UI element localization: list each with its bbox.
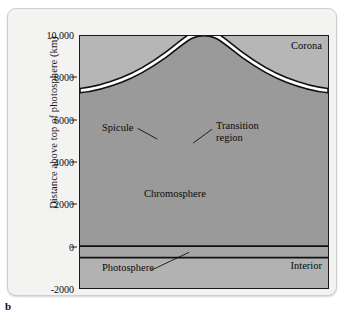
transition-region-label-line1: Transition (216, 120, 259, 131)
y-tick-mark-0 (71, 246, 77, 247)
interior-label: Interior (291, 260, 323, 272)
plot-area: Corona Spicule Transition region Chromos… (79, 35, 329, 289)
y-tick-mark-8000 (71, 77, 77, 78)
figure-letter: b (5, 300, 11, 312)
transition-region-label-line2: region (216, 132, 243, 143)
y-tick-mark-4000 (71, 162, 77, 163)
solar-atmosphere-diagram (80, 36, 328, 288)
chromosphere-label: Chromosphere (144, 188, 206, 200)
corona-label: Corona (291, 40, 322, 52)
photosphere-label: Photosphere (102, 262, 154, 274)
y-axis-tick-marks (8, 35, 80, 289)
transition-region-label: Transition region (216, 120, 259, 144)
y-tick-mark-6000 (71, 119, 77, 120)
y-tick-mark-2000 (71, 204, 77, 205)
figure-card: Distance above top of photosphere (km) 1… (7, 8, 337, 296)
spicule-label: Spicule (102, 122, 134, 134)
photosphere-region (80, 246, 328, 258)
